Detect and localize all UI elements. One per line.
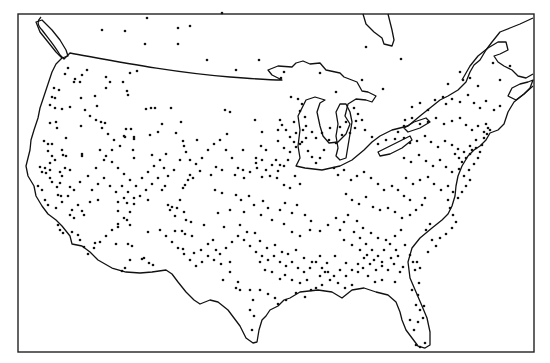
- station-dot: [390, 257, 393, 260]
- station-dot: [115, 243, 118, 246]
- station-dot: [73, 217, 76, 220]
- station-dot: [353, 107, 356, 110]
- station-dot: [411, 117, 414, 120]
- station-dot: [242, 149, 245, 152]
- station-dot: [381, 279, 384, 282]
- station-dot: [433, 183, 436, 186]
- station-dot: [451, 98, 454, 101]
- station-dot: [394, 211, 397, 214]
- station-dot: [411, 289, 414, 292]
- station-dot: [67, 67, 70, 70]
- station-dot: [351, 244, 354, 247]
- station-dot: [381, 261, 384, 264]
- station-dot: [182, 187, 185, 190]
- station-dot: [249, 171, 252, 174]
- station-dot: [439, 237, 442, 240]
- station-dot: [225, 149, 228, 152]
- station-dot: [206, 59, 209, 62]
- station-dot: [492, 62, 495, 65]
- station-dot: [326, 262, 329, 265]
- station-dot: [49, 177, 52, 180]
- station-dot: [240, 199, 243, 202]
- station-dot: [144, 43, 147, 46]
- station-dot: [289, 151, 292, 154]
- station-dot: [93, 247, 96, 250]
- station-dot: [359, 249, 362, 252]
- station-dot: [95, 119, 98, 122]
- station-dot: [51, 181, 54, 184]
- station-dot: [64, 73, 67, 76]
- station-dot: [387, 269, 390, 272]
- station-dot: [294, 175, 297, 178]
- station-dot: [403, 157, 406, 160]
- station-dot: [285, 299, 288, 302]
- station-dot: [195, 163, 198, 166]
- station-dot: [159, 229, 162, 232]
- station-dot: [255, 251, 258, 254]
- station-dot: [224, 109, 227, 112]
- station-dot: [61, 201, 64, 204]
- station-dot: [115, 191, 118, 194]
- station-dot: [419, 267, 422, 270]
- station-dot: [319, 230, 322, 233]
- station-dot: [457, 197, 460, 200]
- station-dot: [424, 197, 427, 200]
- station-dot: [291, 212, 294, 215]
- station-dot: [303, 271, 306, 274]
- station-dot: [291, 231, 294, 234]
- station-dot: [214, 189, 217, 192]
- station-dot: [365, 46, 368, 49]
- station-dot: [334, 255, 337, 258]
- station-dot: [226, 133, 229, 136]
- station-dot: [361, 79, 364, 82]
- station-dot: [96, 105, 99, 108]
- station-dot: [365, 243, 368, 246]
- station-dot: [260, 145, 263, 148]
- station-dot: [319, 72, 322, 75]
- station-dot: [251, 329, 254, 332]
- station-dot: [419, 102, 422, 105]
- station-dot: [364, 129, 367, 132]
- station-dot: [409, 214, 412, 217]
- station-dot: [54, 97, 57, 100]
- station-dot: [437, 146, 440, 149]
- station-dot: [419, 309, 422, 312]
- station-dot: [357, 113, 360, 116]
- station-dot: [277, 140, 280, 143]
- station-dot: [261, 159, 264, 162]
- station-dot: [77, 234, 80, 237]
- station-dot: [361, 119, 364, 122]
- station-dot: [344, 287, 347, 290]
- station-dot: [69, 169, 72, 172]
- station-dot: [327, 271, 330, 274]
- station-dot: [418, 154, 421, 157]
- station-dot: [430, 141, 433, 144]
- station-dot: [157, 131, 160, 134]
- station-dot: [267, 207, 270, 210]
- station-dot: [207, 243, 210, 246]
- station-dot: [129, 72, 132, 75]
- station-dot: [237, 281, 240, 284]
- station-dot: [427, 109, 430, 112]
- station-dot: [304, 296, 307, 299]
- station-dot: [439, 159, 442, 162]
- station-dot: [415, 344, 418, 347]
- station-dot: [147, 171, 150, 174]
- station-dot: [189, 159, 192, 162]
- station-dot: [451, 227, 454, 230]
- station-dot: [229, 209, 232, 212]
- station-dot: [242, 169, 245, 172]
- station-dot: [343, 221, 346, 224]
- station-dot: [393, 263, 396, 266]
- station-dots: [37, 12, 512, 349]
- station-dot: [285, 265, 288, 268]
- station-dot: [311, 131, 314, 134]
- station-dot: [375, 269, 378, 272]
- station-dot: [469, 153, 472, 156]
- station-dot: [243, 211, 246, 214]
- station-dot: [56, 186, 59, 189]
- station-dot: [135, 185, 138, 188]
- station-dot: [69, 214, 72, 217]
- station-dot: [370, 177, 373, 180]
- station-dot: [191, 235, 194, 238]
